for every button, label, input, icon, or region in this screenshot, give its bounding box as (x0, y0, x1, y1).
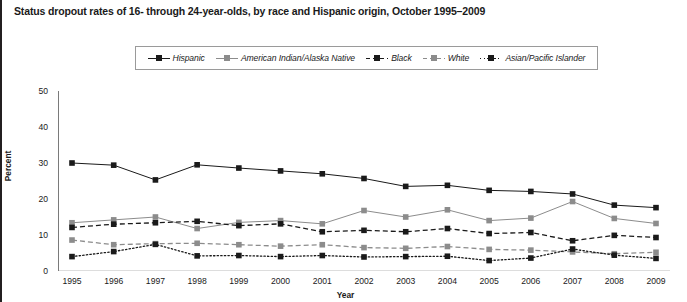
data-point-marker (445, 207, 451, 213)
data-point-marker (153, 177, 159, 183)
data-point-marker (611, 252, 617, 258)
legend-marker-icon (148, 54, 170, 63)
data-point-marker (236, 165, 242, 171)
data-point-marker (153, 214, 159, 220)
legend-item-label: White (448, 53, 469, 63)
series-black (69, 219, 659, 244)
data-point-marker (445, 244, 451, 250)
data-point-marker (528, 230, 534, 236)
data-point-marker (194, 240, 200, 246)
legend-item-black[interactable]: Black (366, 53, 412, 63)
data-point-marker (69, 160, 75, 166)
data-point-marker (611, 233, 617, 239)
data-point-marker (153, 220, 159, 226)
y-axis-tick-label: 0 (26, 266, 48, 276)
data-point-marker (236, 253, 242, 259)
legend-item-american-indian-alaska-native[interactable]: American Indian/Alaska Native (216, 53, 355, 63)
chart-legend: HispanicAmerican Indian/Alaska NativeBla… (135, 46, 598, 70)
data-point-marker (611, 202, 617, 208)
data-point-marker (194, 253, 200, 259)
x-axis-tick-label: 2006 (521, 276, 540, 286)
x-axis-tick-label: 2001 (313, 276, 332, 286)
data-point-marker (403, 254, 409, 260)
y-axis-tick-label: 40 (26, 122, 48, 132)
legend-marker-icon (423, 54, 445, 63)
data-point-marker (361, 245, 367, 251)
data-point-marker (570, 238, 576, 244)
data-point-marker (69, 237, 75, 243)
legend-marker-icon (366, 54, 388, 63)
data-point-marker (319, 221, 325, 227)
data-point-marker (319, 253, 325, 259)
data-point-marker (403, 184, 409, 190)
data-point-marker (653, 221, 659, 227)
legend-marker-icon (480, 54, 502, 63)
x-axis-tick-label: 2005 (480, 276, 499, 286)
x-axis-title: Year (2, 290, 687, 300)
data-point-marker (528, 189, 534, 195)
data-point-marker (403, 246, 409, 252)
chart-title: Status dropout rates of 16- through 24-y… (14, 5, 485, 17)
data-point-marker (653, 235, 659, 241)
data-point-marker (653, 256, 659, 262)
data-point-marker (403, 214, 409, 220)
x-axis-tick-label: 2008 (605, 276, 624, 286)
x-axis-tick-label: 1998 (188, 276, 207, 286)
x-axis-tick-label: 2002 (354, 276, 373, 286)
legend-item-asian-pacific-islander[interactable]: Asian/Pacific Islander (480, 53, 585, 63)
data-point-marker (319, 229, 325, 235)
y-axis-tick-label: 10 (26, 230, 48, 240)
data-point-marker (194, 226, 200, 232)
data-point-marker (111, 249, 117, 255)
y-axis-tick-label: 20 (26, 194, 48, 204)
y-axis-title: Percent (3, 151, 13, 182)
data-point-marker (486, 188, 492, 194)
legend-item-label: Hispanic (173, 53, 205, 63)
legend-item-label: American Indian/Alaska Native (241, 53, 355, 63)
series-american-indian-alaska-native (69, 199, 659, 232)
data-point-marker (361, 228, 367, 234)
data-point-marker (194, 219, 200, 225)
data-point-marker (653, 249, 659, 255)
y-axis-tick-labels: 01020304050 (26, 91, 52, 271)
data-point-marker (528, 247, 534, 253)
data-point-marker (111, 242, 117, 248)
data-point-marker (236, 242, 242, 248)
data-point-marker (153, 242, 159, 248)
data-point-marker (653, 205, 659, 211)
x-axis-tick-label: 1999 (229, 276, 248, 286)
data-point-marker (486, 247, 492, 253)
chart-figure: Status dropout rates of 16- through 24-y… (0, 0, 687, 302)
data-point-marker (445, 226, 451, 232)
legend-item-label: Asian/Pacific Islander (505, 53, 585, 63)
data-point-marker (361, 254, 367, 260)
data-point-marker (486, 258, 492, 264)
data-point-marker (319, 242, 325, 248)
x-axis-tick-label: 2009 (646, 276, 665, 286)
data-point-marker (69, 254, 75, 260)
legend-item-hispanic[interactable]: Hispanic (148, 53, 205, 63)
data-point-marker (528, 255, 534, 261)
legend-marker-icon (216, 54, 238, 63)
data-point-marker (361, 176, 367, 182)
data-point-marker (403, 229, 409, 235)
data-point-marker (319, 171, 325, 177)
data-point-marker (611, 216, 617, 222)
data-point-marker (570, 191, 576, 197)
series-line (72, 202, 656, 229)
data-point-marker (445, 253, 451, 259)
data-point-marker (236, 223, 242, 229)
x-axis-tick-label: 2004 (438, 276, 457, 286)
data-point-marker (111, 162, 117, 168)
data-point-marker (445, 183, 451, 189)
data-point-marker (69, 225, 75, 231)
data-point-marker (570, 199, 576, 205)
legend-item-white[interactable]: White (423, 53, 469, 63)
x-axis-tick-label: 2003 (396, 276, 415, 286)
x-axis-tick-label: 2000 (271, 276, 290, 286)
data-point-marker (278, 221, 284, 227)
x-axis-tick-label: 1996 (104, 276, 123, 286)
series-line (72, 163, 656, 208)
plot-area (58, 91, 670, 271)
x-axis-tick-label: 1995 (62, 276, 81, 286)
